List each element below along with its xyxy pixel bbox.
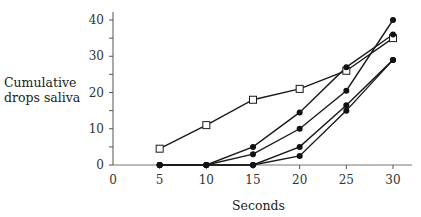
x-tick-label: 0 xyxy=(109,173,117,187)
series-line xyxy=(160,60,393,165)
dot-marker xyxy=(250,151,256,157)
dot-marker xyxy=(297,144,303,150)
dot-marker xyxy=(250,162,256,168)
series-line xyxy=(160,35,393,166)
y-tick-label: 20 xyxy=(89,86,104,100)
dot-marker xyxy=(343,88,349,94)
square-marker xyxy=(156,145,163,152)
dot-marker xyxy=(390,32,396,38)
x-tick-label: 10 xyxy=(199,173,214,187)
dot-marker xyxy=(297,126,303,132)
dot-marker xyxy=(250,144,256,150)
dot-marker xyxy=(297,109,303,115)
y-tick-label: 10 xyxy=(89,122,104,136)
square-marker xyxy=(296,85,303,92)
square-marker xyxy=(203,122,210,129)
x-tick-label: 25 xyxy=(339,173,354,187)
square-marker xyxy=(250,96,257,103)
dot-marker xyxy=(297,153,303,159)
dot-marker xyxy=(343,102,349,108)
dot-marker xyxy=(157,162,163,168)
dot-marker xyxy=(203,162,209,168)
line-chart: 010203040051015202530 xyxy=(0,0,421,217)
series-line xyxy=(160,60,393,165)
x-tick-label: 5 xyxy=(156,173,164,187)
dot-marker xyxy=(343,64,349,70)
x-tick-label: 20 xyxy=(292,173,307,187)
dot-marker xyxy=(390,17,396,23)
y-tick-label: 30 xyxy=(89,49,104,63)
y-tick-label: 40 xyxy=(89,13,104,27)
y-tick-label: 0 xyxy=(96,158,104,172)
x-tick-label: 15 xyxy=(245,173,260,187)
dot-marker xyxy=(343,108,349,114)
dot-marker xyxy=(390,57,396,63)
x-tick-label: 30 xyxy=(385,173,400,187)
series-line xyxy=(160,20,393,165)
